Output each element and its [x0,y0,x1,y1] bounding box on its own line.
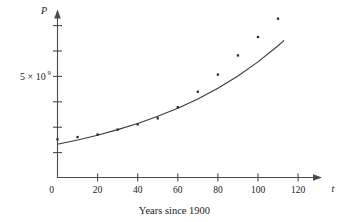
data-point [96,133,98,135]
data-point [237,54,239,56]
y-tick-label-mantissa: 5 × 10 [20,71,46,82]
data-point [177,106,179,108]
x-tick-label-80: 80 [213,185,223,195]
data-point [76,136,78,138]
data-point [257,36,259,38]
data-point [117,129,119,131]
chart-canvas: P 5 × 10 9 0 20 40 60 80 100 120 [0,0,349,222]
y-axis-group [53,10,62,179]
data-point [277,18,279,20]
x-tick-labels: 0 20 40 60 80 100 120 [49,185,305,195]
x-tick-label-120: 120 [291,185,306,195]
x-tick-label-100: 100 [251,185,266,195]
x-axis-arrow [313,174,322,181]
y-tick-label-exponent: 9 [48,69,51,76]
population-chart-figure: P 5 × 10 9 0 20 40 60 80 100 120 [0,0,349,222]
x-axis-group [58,174,323,182]
x-tick-label-40: 40 [133,185,143,195]
scatter-points-layer [56,18,279,141]
x-axis-label: t [332,183,335,194]
data-point [217,73,219,75]
x-tick-label-20: 20 [93,185,103,195]
chart-caption: Years since 1900 [139,205,210,216]
y-tick-label-5e9: 5 × 10 9 [20,69,51,82]
y-axis-label: P [40,5,47,16]
data-point [157,117,159,119]
data-point [56,138,58,140]
data-point [197,91,199,93]
x-tick-label-0: 0 [49,185,54,195]
x-tick-label-60: 60 [173,185,183,195]
data-point [137,123,139,125]
exponential-model-curve [58,40,285,144]
y-axis-arrow [54,10,61,19]
